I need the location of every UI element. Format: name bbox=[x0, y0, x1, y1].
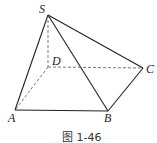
edge-dc-hidden bbox=[48, 67, 143, 68]
label-a: A bbox=[7, 111, 16, 125]
label-s: S bbox=[39, 2, 45, 16]
label-d: D bbox=[51, 54, 61, 68]
label-c: C bbox=[146, 62, 155, 76]
edge-bc bbox=[108, 68, 143, 111]
edge-sc bbox=[48, 15, 143, 68]
pyramid-diagram: S D C A B 图 1-46 bbox=[0, 0, 157, 143]
figure-caption: 图 1-46 bbox=[62, 131, 101, 143]
edge-sa bbox=[15, 15, 48, 110]
edge-da-hidden bbox=[15, 67, 48, 110]
edge-ab bbox=[15, 110, 108, 111]
label-b: B bbox=[104, 111, 112, 125]
